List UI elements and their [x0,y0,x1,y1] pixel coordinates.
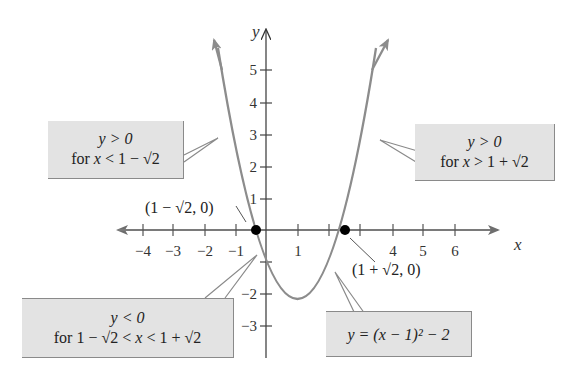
callout-upper-left-line1: y > 0 [99,130,133,147]
x-axis [118,224,498,236]
y-axis [260,30,272,358]
left-root-leader [236,206,246,222]
callout-text: for 1 − √2 < [54,329,135,346]
equation-label: y = (x − 1)² − 2 [326,325,471,345]
y-tick-label: 5 [250,62,258,78]
callout-lower-left-line1: y < 0 [111,309,145,326]
x-tick-label: 4 [389,243,397,259]
callout-text: > 1 + √2 [470,153,529,170]
right-root-leader [350,238,375,262]
y-tick-label: 2 [250,159,258,175]
callout-pointers [184,138,421,314]
callout-text: < 1 + √2 [142,329,201,346]
y-tick-labels: 5 4 3 2 1 −2 −3 [241,62,257,334]
callout-upper-left: y > 0 for x < 1 − √2 [48,121,184,179]
callout-equation: y = (x − 1)² − 2 [326,311,472,357]
y-tick-label: 3 [250,127,258,143]
x-tick-label: 1 [294,243,302,259]
right-root-label: (1 + √2, 0) [352,261,420,279]
left-root-point [251,225,261,235]
left-root-label: (1 − √2, 0) [145,199,213,217]
x-tick-label: −1 [228,243,244,259]
y-tick-label: 1 [250,191,258,207]
callout-text: for [71,150,94,167]
y-tick-label: −2 [241,286,257,302]
right-root-point [340,225,350,235]
y-axis-label: y [250,22,260,41]
x-tick-label: −4 [135,243,151,259]
callout-lower-left: y < 0 for 1 − √2 < x < 1 + √2 [22,298,234,358]
x-tick-label: −3 [165,243,181,259]
curve-arrow-left-icon [214,40,222,70]
callout-text: for [440,153,463,170]
y-tick-label: −3 [241,318,257,334]
x-axis-label: x [513,235,522,254]
callout-upper-right: y > 0 for x > 1 + √2 [415,124,555,181]
x-tick-labels: −4 −3 −2 −1 1 4 5 6 [135,243,459,259]
callout-var: x [94,150,101,167]
y-tick-label: 4 [250,95,258,111]
x-tick-label: −2 [197,243,213,259]
x-tick-label: 6 [451,243,459,259]
callout-text: < 1 − √2 [101,150,160,167]
callout-upper-right-line1: y > 0 [468,133,502,150]
callout-var: x [463,153,470,170]
x-tick-label: 5 [419,243,427,259]
